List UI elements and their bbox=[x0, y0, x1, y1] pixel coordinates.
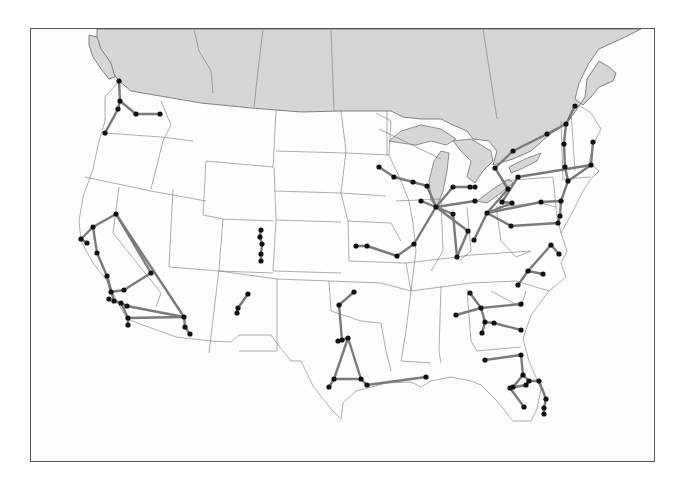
station-node bbox=[125, 315, 130, 320]
route-segment bbox=[379, 167, 394, 177]
station-node bbox=[94, 250, 99, 255]
station-node bbox=[454, 254, 459, 259]
station-node bbox=[326, 384, 331, 389]
station-node bbox=[345, 335, 350, 340]
station-node bbox=[258, 258, 263, 263]
route-segment bbox=[485, 355, 521, 360]
route-segment bbox=[510, 388, 524, 407]
route-segment bbox=[397, 244, 414, 256]
station-node bbox=[84, 240, 89, 245]
station-node bbox=[90, 224, 95, 229]
route-segment bbox=[334, 338, 348, 379]
route-segment bbox=[436, 207, 468, 231]
station-node bbox=[515, 282, 520, 287]
route-segment bbox=[541, 201, 561, 202]
station-node bbox=[257, 234, 262, 239]
station-node bbox=[116, 78, 121, 83]
station-node bbox=[423, 374, 428, 379]
route-segment bbox=[93, 214, 116, 227]
station-node bbox=[544, 131, 549, 136]
station-node bbox=[245, 291, 250, 296]
station-node bbox=[499, 199, 504, 204]
station-node bbox=[353, 243, 358, 248]
station-node bbox=[418, 198, 423, 203]
station-node bbox=[541, 411, 546, 416]
station-node bbox=[518, 352, 523, 357]
station-node bbox=[424, 183, 429, 188]
station-node bbox=[121, 287, 126, 292]
route-segment bbox=[511, 223, 558, 226]
station-node bbox=[111, 298, 116, 303]
station-node bbox=[336, 302, 341, 307]
route-segment bbox=[539, 381, 546, 399]
station-node bbox=[510, 148, 515, 153]
route-segment bbox=[105, 109, 118, 133]
station-node bbox=[520, 372, 525, 377]
station-node bbox=[508, 223, 513, 228]
route-segment bbox=[116, 214, 184, 317]
route-segment bbox=[394, 177, 413, 182]
station-node bbox=[525, 268, 530, 273]
route-segment bbox=[119, 81, 120, 101]
station-node bbox=[125, 322, 130, 327]
station-node bbox=[467, 290, 472, 295]
station-node bbox=[187, 331, 192, 336]
route-segment bbox=[339, 292, 354, 305]
station-node bbox=[558, 198, 563, 203]
station-node bbox=[234, 310, 239, 315]
route-segment bbox=[470, 293, 481, 308]
station-node bbox=[472, 184, 477, 189]
station-node bbox=[411, 241, 416, 246]
station-node bbox=[479, 330, 484, 335]
station-node bbox=[133, 111, 138, 116]
station-node bbox=[102, 130, 107, 135]
station-node bbox=[521, 404, 526, 409]
station-node bbox=[117, 98, 122, 103]
route-segment bbox=[591, 142, 593, 165]
station-node bbox=[507, 385, 512, 390]
station-node bbox=[562, 164, 567, 169]
map-frame bbox=[30, 28, 655, 462]
station-node bbox=[394, 253, 399, 258]
station-node bbox=[541, 405, 546, 410]
station-node bbox=[484, 210, 489, 215]
station-node bbox=[115, 106, 120, 111]
station-node bbox=[548, 242, 553, 247]
station-node bbox=[108, 289, 113, 294]
station-node bbox=[339, 337, 344, 342]
station-node bbox=[124, 303, 129, 308]
station-node bbox=[590, 139, 595, 144]
station-node bbox=[588, 162, 593, 167]
station-node bbox=[351, 289, 356, 294]
route-segment bbox=[474, 213, 487, 240]
station-node bbox=[491, 320, 496, 325]
route-segment bbox=[487, 213, 511, 226]
station-node bbox=[555, 220, 560, 225]
station-node bbox=[556, 251, 561, 256]
route-segment bbox=[97, 253, 107, 276]
route-segment bbox=[481, 304, 521, 308]
route-segment bbox=[561, 181, 568, 201]
station-node bbox=[364, 243, 369, 248]
lake-huron bbox=[453, 139, 493, 183]
route-segment bbox=[564, 144, 565, 167]
station-node bbox=[523, 382, 528, 387]
station-node bbox=[410, 179, 415, 184]
station-node bbox=[518, 327, 523, 332]
station-node bbox=[540, 271, 545, 276]
route-segment bbox=[367, 377, 426, 385]
route-segment bbox=[348, 338, 361, 379]
station-node bbox=[118, 300, 123, 305]
station-node bbox=[563, 121, 568, 126]
station-node bbox=[391, 174, 396, 179]
route-segment bbox=[93, 227, 97, 253]
us-route-map bbox=[31, 29, 655, 462]
station-node bbox=[509, 200, 514, 205]
station-node bbox=[331, 376, 336, 381]
station-node bbox=[78, 236, 83, 241]
route-segment bbox=[414, 207, 436, 244]
route-segment bbox=[521, 355, 523, 375]
station-node bbox=[258, 227, 263, 232]
station-node bbox=[492, 165, 497, 170]
route-segment bbox=[120, 101, 136, 114]
